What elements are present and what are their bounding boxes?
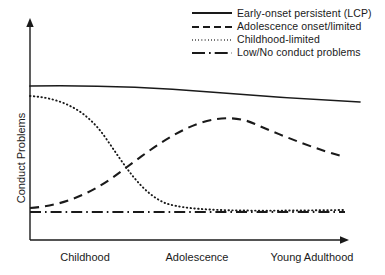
x-axis bbox=[30, 236, 349, 243]
y-axis-title: Conduct Problems bbox=[15, 93, 27, 223]
legend-label-low-no-conduct-problems: Low/No conduct problems bbox=[237, 46, 361, 58]
x-axis-label-young-adulthood: Young Adulthood bbox=[242, 251, 382, 263]
series-line-early-onset-persistent bbox=[30, 86, 360, 102]
legend-label-adolescence-onset-limited: Adolescence onset/limited bbox=[237, 20, 362, 32]
series-line-adolescence-onset-limited bbox=[30, 118, 345, 208]
x-axis-label-adolescence: Adolescence bbox=[137, 251, 257, 263]
chart-plot-area bbox=[0, 0, 385, 275]
series-line-childhood-limited bbox=[30, 96, 345, 211]
legend-swatches bbox=[192, 13, 232, 53]
x-axis-arrowhead bbox=[340, 236, 349, 243]
legend-label-childhood-limited: Childhood-limited bbox=[237, 33, 320, 45]
chart-figure: Early-onset persistent (LCP) Adolescence… bbox=[0, 0, 385, 275]
y-axis bbox=[26, 18, 33, 240]
y-axis-arrowhead bbox=[26, 18, 33, 27]
legend-label-early-onset-persistent: Early-onset persistent (LCP) bbox=[237, 7, 372, 19]
x-axis-label-childhood: Childhood bbox=[25, 251, 145, 263]
